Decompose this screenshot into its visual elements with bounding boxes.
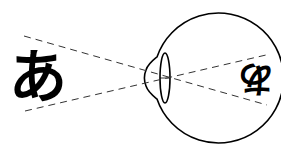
object-character: あ xyxy=(9,43,67,111)
eye-optics-diagram: あ あ xyxy=(0,0,281,152)
inverted-character: あ xyxy=(238,58,274,99)
retinal-image: あ xyxy=(238,58,274,99)
